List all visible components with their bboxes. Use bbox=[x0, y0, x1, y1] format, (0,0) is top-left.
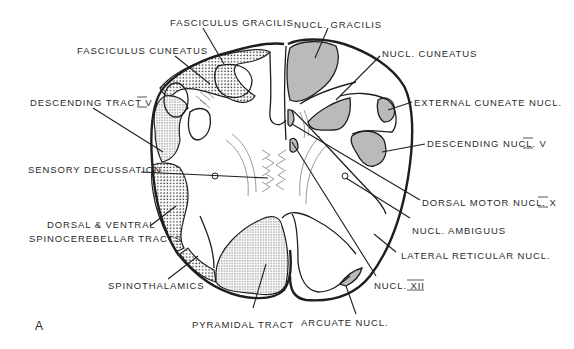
nucl-xii-region bbox=[288, 110, 294, 126]
label-nucl-ambiguus: NUCL. AMBIGUUS bbox=[412, 225, 506, 236]
arcuate-nucl-region bbox=[340, 268, 362, 286]
label-sensory-decussation: SENSORY DECUSSATION bbox=[28, 164, 162, 175]
label-descending-tract-v: DESCENDING TRACT V bbox=[30, 97, 152, 108]
label-spinothalamics: SPINOTHALAMICS bbox=[108, 280, 205, 291]
descending-tract-v-region bbox=[154, 96, 188, 162]
pyramidal-tract-region bbox=[216, 217, 288, 295]
nucl-gracilis-region bbox=[287, 42, 338, 102]
label-pyramidal-tract: PYRAMIDAL TRACT bbox=[192, 319, 294, 330]
label-fasciculus-cuneatus: FASCICULUS CUNEATUS bbox=[77, 45, 208, 56]
label-nucl-xii: NUCL. XII bbox=[374, 280, 425, 291]
label-nucl-cuneatus: NUCL. CUNEATUS bbox=[382, 48, 477, 59]
label-spinocerebellar-line2: SPINOCEREBELLAR TRACTS bbox=[29, 233, 182, 244]
nucl-cuneatus-region bbox=[308, 98, 350, 130]
sensory-decussation-fibres bbox=[196, 90, 348, 204]
descending-nucl-v-region bbox=[351, 131, 386, 166]
label-arcuate-nucl: ARCUATE NUCL. bbox=[301, 317, 389, 328]
label-external-cuneate-nucl: EXTERNAL CUNEATE NUCL. bbox=[414, 97, 562, 108]
external-cuneate-region bbox=[377, 98, 394, 122]
panel-letter: A bbox=[35, 319, 43, 333]
label-descending-nucl-v: DESCENDING NUCL. V bbox=[427, 138, 547, 149]
left-half bbox=[152, 49, 289, 294]
label-spinocerebellar-line1: DORSAL & VENTRAL bbox=[47, 219, 156, 230]
label-dorsal-motor-nucl-x: DORSAL MOTOR NUCL. X bbox=[422, 197, 557, 208]
right-half bbox=[287, 42, 395, 286]
label-nucl-gracilis: NUCL. GRACILIS bbox=[294, 19, 382, 30]
label-fasciculus-gracilis: FASCICULUS GRACILIS bbox=[170, 17, 294, 28]
medulla-diagram: FASCICULUS GRACILIS FASCICULUS CUNEATUS … bbox=[0, 0, 574, 349]
label-lateral-reticular-nucl: LATERAL RETICULAR NUCL. bbox=[401, 250, 551, 261]
